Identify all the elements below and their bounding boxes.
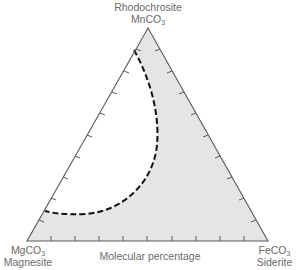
mineral-name: Rhodochrosite <box>98 1 198 13</box>
vertex-label-rhodochrosite: Rhodochrosite MnCO3 <box>98 1 198 25</box>
vertex-label-magnesite: MgCO3 Magnesite <box>0 244 56 268</box>
ternary-diagram <box>0 0 297 270</box>
formula: FeCO3 <box>252 244 297 256</box>
axis-label: Molecular percentage <box>90 250 210 262</box>
vertex-label-siderite: FeCO3 Siderite <box>252 244 297 268</box>
left-edge-ticks <box>39 49 141 222</box>
formula: MnCO3 <box>98 13 198 25</box>
mineral-name: Siderite <box>252 256 297 268</box>
mineral-name: Magnesite <box>0 256 56 268</box>
formula: MgCO3 <box>0 244 56 256</box>
solid-solution-region <box>27 28 268 241</box>
